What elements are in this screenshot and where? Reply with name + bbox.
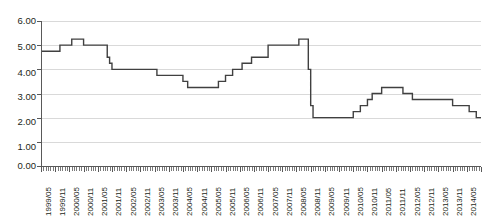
- x-axis-tick-mark: [103, 167, 104, 171]
- x-axis-tick-mark: [356, 167, 357, 171]
- x-axis-tick-mark: [176, 167, 177, 171]
- x-axis-tick-mark: [323, 167, 324, 171]
- x-axis-tick-mark: [143, 167, 144, 171]
- x-axis-tick-mark: [419, 167, 420, 171]
- x-axis-tick-mark: [237, 167, 238, 171]
- x-axis-tick-mark: [95, 167, 96, 171]
- x-axis-tick-mark: [121, 167, 122, 171]
- x-axis-tick-mark: [204, 167, 205, 171]
- x-axis-tick-mark: [124, 167, 125, 171]
- x-axis-tick-mark: [65, 167, 66, 171]
- x-axis-tick-mark: [401, 167, 402, 171]
- x-axis-tick-mark: [457, 167, 458, 171]
- x-axis-tick-mark: [48, 167, 49, 171]
- y-axis-tick-label: 4.00: [0, 68, 36, 78]
- x-axis-tick-mark: [188, 167, 189, 171]
- x-axis-tick-mark: [370, 167, 371, 171]
- x-axis-tick-mark: [178, 167, 179, 171]
- x-axis-tick-label: 2002/05: [130, 187, 138, 216]
- x-axis-tick-label: 1999/11: [59, 188, 67, 216]
- x-axis-tick-label: 2012/11: [428, 188, 436, 216]
- x-axis-tick-mark: [341, 167, 342, 171]
- x-axis-tick-mark: [337, 167, 338, 171]
- x-axis-tick-label: 2006/11: [257, 188, 265, 216]
- x-axis-tick-mark: [131, 167, 132, 171]
- x-axis-tick-mark: [429, 167, 430, 171]
- x-axis-tick-label: 2000/05: [73, 187, 81, 216]
- x-axis-tick-mark: [344, 167, 345, 171]
- x-axis-tick-mark: [455, 167, 456, 171]
- x-axis-tick-mark: [114, 167, 115, 171]
- x-axis-tick-mark: [315, 167, 316, 171]
- x-axis-tick-mark: [287, 167, 288, 171]
- x-axis-tick-mark: [330, 167, 331, 171]
- x-axis-tick-mark: [190, 167, 191, 171]
- x-axis-tick-mark: [285, 167, 286, 171]
- x-axis-tick-mark: [448, 167, 449, 171]
- x-axis-tick-mark: [412, 167, 413, 171]
- x-axis-tick-mark: [263, 167, 264, 171]
- x-axis-tick-mark: [294, 167, 295, 171]
- x-axis-tick-mark: [67, 167, 68, 171]
- x-axis-tick-mark: [199, 167, 200, 171]
- x-axis-tick-mark: [275, 167, 276, 171]
- y-axis-tick-label: 0.00: [0, 161, 36, 171]
- x-axis-tick-mark: [377, 167, 378, 171]
- x-axis-tick-mark: [53, 167, 54, 171]
- x-axis-tick-mark: [79, 167, 80, 171]
- x-axis-tick-label: 2005/05: [215, 187, 223, 216]
- x-axis-tick-mark: [100, 167, 101, 171]
- x-axis-tick-mark: [171, 167, 172, 171]
- x-axis-tick-mark: [233, 167, 234, 171]
- x-axis-tick-label: 2006/05: [243, 187, 251, 216]
- x-axis-tick-mark: [256, 167, 257, 171]
- x-axis-tick-mark: [346, 167, 347, 171]
- x-axis-tick-mark: [334, 167, 335, 171]
- x-axis-tick-mark: [228, 167, 229, 171]
- x-axis-tick-mark: [358, 167, 359, 171]
- x-axis-tick-mark: [363, 167, 364, 171]
- x-axis-tick-mark: [443, 167, 444, 171]
- chart-container: 6.00 5.00 4.00 3.00 2.00 1.00 0.00 1999/…: [0, 0, 482, 221]
- x-axis-tick-mark: [278, 167, 279, 171]
- x-axis-tick-mark: [166, 167, 167, 171]
- x-axis-tick-mark: [150, 167, 151, 171]
- x-axis-tick-mark: [88, 167, 89, 171]
- x-axis-tick-mark: [474, 167, 475, 171]
- x-axis-tick-label: 2012/05: [414, 187, 422, 216]
- x-axis-tick-mark: [72, 167, 73, 171]
- x-axis-tick-mark: [218, 167, 219, 171]
- x-axis-tick-mark: [292, 167, 293, 171]
- x-axis-tick-mark: [360, 167, 361, 171]
- x-axis-tick-mark: [214, 167, 215, 171]
- x-axis-tick-mark: [152, 167, 153, 171]
- x-axis-tick-mark: [320, 167, 321, 171]
- x-axis-tick-mark: [86, 167, 87, 171]
- x-axis-tick-mark: [384, 167, 385, 171]
- y-axis-tick-label: 5.00: [0, 42, 36, 52]
- x-axis-tick-mark: [230, 167, 231, 171]
- x-axis-tick-mark: [304, 167, 305, 171]
- x-axis-tick-mark: [408, 167, 409, 171]
- x-axis-tick-mark: [207, 167, 208, 171]
- x-axis-tick-mark: [209, 167, 210, 171]
- x-axis-tick-mark: [247, 167, 248, 171]
- x-axis-tick-mark: [479, 167, 480, 171]
- x-axis-tick-mark: [464, 167, 465, 171]
- x-axis-tick-mark: [280, 167, 281, 171]
- x-axis-tick-mark: [391, 167, 392, 171]
- x-axis-tick-mark: [107, 167, 108, 171]
- x-axis-tick-mark: [417, 167, 418, 171]
- x-axis-tick-label: 2002/11: [144, 188, 152, 216]
- x-axis-tick-mark: [393, 167, 394, 171]
- y-axis-tick-label: 3.00: [0, 92, 36, 102]
- x-axis-tick-mark: [138, 167, 139, 171]
- x-axis-tick-mark: [450, 167, 451, 171]
- x-axis-tick-label: 2013/05: [442, 187, 450, 216]
- x-axis-tick-mark: [60, 167, 61, 171]
- x-axis-tick-label: 2008/11: [314, 188, 322, 216]
- x-axis-tick-mark: [351, 167, 352, 171]
- x-axis-tick-mark: [386, 167, 387, 171]
- x-axis-tick-mark: [43, 167, 44, 171]
- x-axis-tick-mark: [74, 167, 75, 171]
